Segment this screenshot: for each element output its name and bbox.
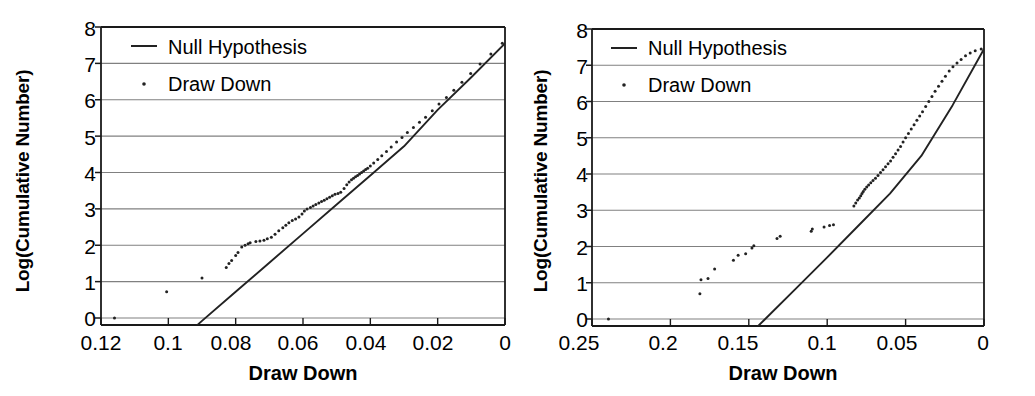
y-tick-right-6: 6 [560, 92, 588, 113]
y-tick-left-2: 2 [68, 236, 96, 257]
chart-panel-left: Log(Cumulative Number) 8 7 6 5 4 3 2 1 0… [0, 0, 517, 396]
y-tick-left-4: 4 [68, 163, 96, 184]
y-tick-right-2: 2 [560, 237, 588, 258]
y-tick-right-0: 0 [560, 309, 588, 330]
x-tick-left-4: 0.04 [336, 332, 396, 353]
legend-label-left-draw-down: Draw Down [168, 74, 271, 94]
y-tick-right-7: 7 [560, 56, 588, 77]
y-tick-left-0: 0 [68, 308, 96, 329]
x-tick-left-3: 0.06 [268, 332, 328, 353]
x-tick-left-0: 0.12 [71, 332, 131, 353]
figure-container: Log(Cumulative Number) 8 7 6 5 4 3 2 1 0… [0, 0, 1035, 396]
legend-dot-swatch [142, 82, 146, 86]
x-tick-right-1: 0.2 [628, 332, 698, 353]
y-tick-right-4: 4 [560, 164, 588, 185]
y-tick-right-5: 5 [560, 128, 588, 149]
legend-label-right-null-hypothesis: Null Hypothesis [648, 38, 787, 58]
x-tick-right-2: 0.15 [703, 332, 773, 353]
y-tick-right-8: 8 [560, 20, 588, 41]
x-tick-right-4: 0.05 [862, 332, 932, 353]
y-tick-left-6: 6 [68, 90, 96, 111]
y-tick-left-7: 7 [68, 54, 96, 75]
x-tick-right-5: 0 [963, 332, 1003, 353]
legend-dot-swatch [622, 83, 626, 87]
x-tick-left-1: 0.1 [138, 332, 198, 353]
x-tick-left-5: 0.02 [403, 332, 463, 353]
chart-panel-right: Log(Cumulative Number) 8 7 6 5 4 3 2 1 0… [518, 0, 1035, 396]
x-tick-right-3: 0.1 [787, 332, 857, 353]
y-tick-right-1: 1 [560, 273, 588, 294]
y-tick-left-3: 3 [68, 199, 96, 220]
y-tick-left-8: 8 [68, 18, 96, 39]
legend-label-left-null-hypothesis: Null Hypothesis [168, 37, 307, 57]
legend-label-right-draw-down: Draw Down [648, 75, 751, 95]
x-tick-right-0: 0.25 [544, 332, 614, 353]
y-tick-left-1: 1 [68, 272, 96, 293]
y-tick-right-3: 3 [560, 200, 588, 221]
y-tick-left-5: 5 [68, 127, 96, 148]
x-axis-title-right: Draw Down [683, 362, 883, 385]
x-tick-left-2: 0.08 [201, 332, 261, 353]
x-axis-title-left: Draw Down [203, 362, 403, 385]
